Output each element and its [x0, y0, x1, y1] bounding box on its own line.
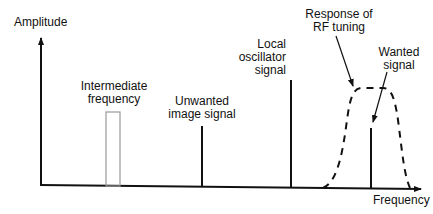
rf-tuning-label: Response of RF tuning [300, 8, 378, 34]
rf-tuning-pointer-arrow [336, 36, 353, 86]
local-oscillator-label: Local oscillator signal [224, 38, 286, 77]
intermediate-frequency-box [106, 112, 120, 186]
y-axis-label: Amplitude [14, 16, 67, 29]
wanted-signal-label: Wanted signal [374, 46, 424, 72]
wanted-signal-pointer-arrow [373, 72, 387, 122]
unwanted-image-label: Unwanted image signal [162, 95, 242, 121]
intermediate-frequency-label: Intermediate frequency [74, 80, 154, 106]
x-axis [40, 185, 421, 189]
x-axis-label: Frequency [373, 194, 430, 207]
rf-tuning-response-curve [323, 88, 410, 188]
